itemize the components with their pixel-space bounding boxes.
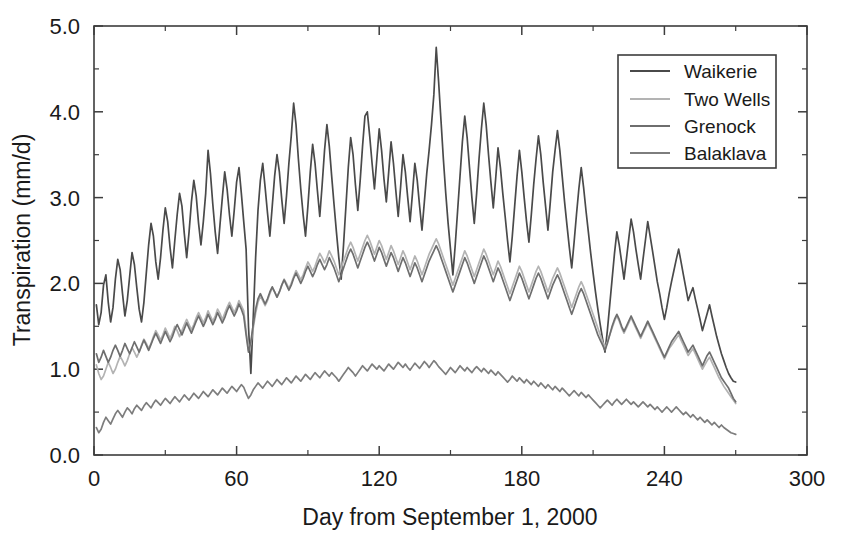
y-tick-label-1.0: 1.0	[49, 357, 80, 382]
legend-label-two-wells: Two Wells	[684, 89, 770, 110]
y-tick-label-2.0: 2.0	[49, 271, 80, 296]
x-tick-label-300: 300	[789, 466, 826, 491]
x-tick-label-240: 240	[646, 466, 683, 491]
y-tick-label-5.0: 5.0	[49, 14, 80, 39]
legend-label-waikerie: Waikerie	[684, 61, 757, 82]
x-tick-label-120: 120	[361, 466, 398, 491]
chart-figure: 060120180240300 0.01.02.03.04.05.0 Day f…	[0, 0, 844, 548]
y-tick-label-0.0: 0.0	[49, 443, 80, 468]
chart-legend: WaikerieTwo WellsGrenockBalaklava	[618, 55, 776, 168]
y-axis-title: Transpiration (mm/d)	[9, 134, 35, 347]
legend-label-grenock: Grenock	[684, 116, 756, 137]
legend-label-balaklava: Balaklava	[684, 143, 767, 164]
x-axis-title: Day from September 1, 2000	[302, 504, 597, 530]
x-tick-label-0: 0	[88, 466, 100, 491]
y-tick-label-3.0: 3.0	[49, 186, 80, 211]
x-tick-label-60: 60	[224, 466, 248, 491]
transpiration-line-chart: 060120180240300 0.01.02.03.04.05.0 Day f…	[0, 0, 844, 548]
x-tick-label-180: 180	[503, 466, 540, 491]
y-tick-label-4.0: 4.0	[49, 100, 80, 125]
